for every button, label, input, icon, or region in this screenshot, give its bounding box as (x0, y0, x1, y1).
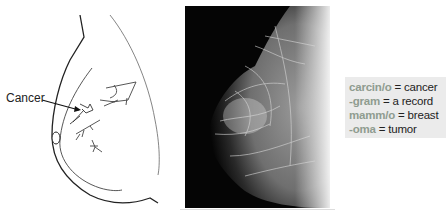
mammogram-image (185, 6, 330, 208)
term-row: -gram = a record (349, 94, 446, 108)
term-root: carcin/o (349, 81, 392, 93)
term-equals: = (380, 95, 393, 107)
term-meaning: cancer (404, 81, 437, 93)
mammogram-xray (185, 6, 330, 208)
term-root: -gram (349, 95, 380, 107)
term-row: carcin/o = cancer (349, 80, 446, 94)
term-meaning: breast (408, 109, 439, 121)
cancer-label: Cancer (6, 91, 45, 105)
term-meaning: tumor (388, 123, 416, 135)
term-root: mamm/o (349, 109, 395, 121)
term-row: -oma = tumor (349, 122, 446, 136)
term-equals: = (392, 81, 405, 93)
term-equals: = (395, 109, 408, 121)
term-meaning: a record (392, 95, 433, 107)
term-row: mamm/o = breast (349, 108, 446, 122)
breast-outline-drawing (0, 0, 170, 213)
breast-diagram: Cancer (0, 0, 170, 213)
word-parts-box: carcin/o = cancer -gram = a record mamm/… (345, 77, 446, 138)
term-equals: = (376, 123, 389, 135)
term-root: -oma (349, 123, 376, 135)
image-bottom-border (180, 209, 335, 210)
